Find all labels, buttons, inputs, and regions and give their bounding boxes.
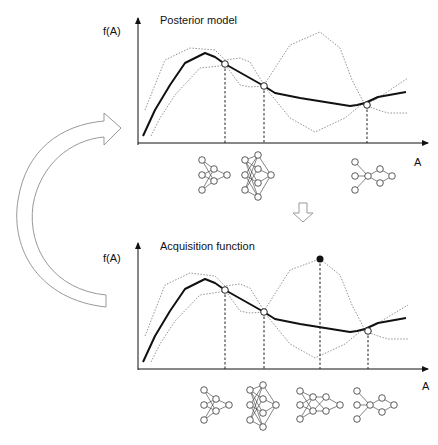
upper-confidence-bound — [145, 32, 408, 110]
x-axis-label: A — [422, 380, 430, 392]
y-axis-label: f(A) — [103, 252, 121, 264]
observed-point — [364, 102, 371, 109]
acquisition-function-panel: f(A) A Acquisition function — [103, 240, 430, 392]
observed-point — [222, 287, 229, 294]
acquisition-mean-curve — [143, 279, 406, 362]
x-axis-label: A — [414, 156, 422, 168]
architecture-icon — [242, 152, 275, 201]
architecture-icon — [352, 159, 396, 194]
panel-title: Acquisition function — [160, 240, 255, 252]
upper-confidence-bound — [145, 259, 408, 336]
observed-point — [261, 309, 268, 316]
observed-point — [365, 328, 372, 335]
feedback-curved-arrow-icon — [17, 113, 121, 307]
observed-point — [222, 61, 229, 68]
architecture-icon — [297, 388, 344, 423]
posterior-model-panel: f(A) A Posterior model — [103, 14, 428, 168]
architecture-icon — [354, 388, 398, 423]
architecture-icon — [199, 157, 231, 194]
architecture-icon — [247, 382, 280, 431]
observed-point — [261, 83, 268, 90]
selected-next-point — [317, 256, 324, 263]
down-arrow-icon — [293, 203, 313, 222]
bayesian-optimization-diagram: f(A) A Posterior model — [0, 0, 438, 445]
architecture-icon — [201, 387, 233, 424]
y-axis-label: f(A) — [103, 25, 121, 37]
panel-title: Posterior model — [160, 14, 237, 26]
